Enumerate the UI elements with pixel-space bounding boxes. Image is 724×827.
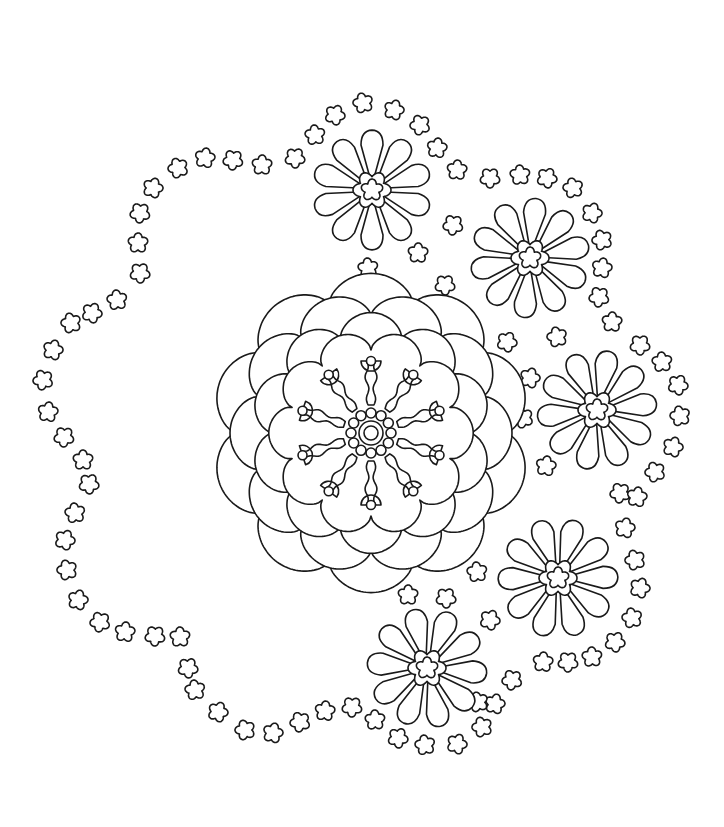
small-flower-icon bbox=[558, 653, 577, 672]
small-flower-icon bbox=[398, 585, 417, 604]
small-flower-icon bbox=[606, 633, 625, 652]
daisy-flower bbox=[498, 520, 618, 635]
small-flower-icon bbox=[305, 125, 324, 144]
central-mandala-flower bbox=[217, 273, 525, 592]
small-flower-icon bbox=[583, 203, 602, 222]
small-flower-icon bbox=[582, 647, 601, 666]
mandala-dot bbox=[356, 411, 366, 421]
small-flower-icon bbox=[563, 178, 582, 197]
small-flower-icon bbox=[534, 652, 553, 671]
mandala-ray-bulb bbox=[324, 370, 333, 379]
mandala-ray-bulb bbox=[367, 501, 376, 510]
daisy-flower bbox=[538, 351, 657, 469]
mandala-dot bbox=[366, 408, 376, 418]
small-flower-icon bbox=[185, 680, 204, 699]
small-flower-icon bbox=[128, 233, 147, 252]
mandala-ray-bulb bbox=[367, 357, 376, 366]
small-flower-icon bbox=[326, 106, 345, 125]
small-flower-icon bbox=[448, 160, 467, 179]
mandala-ray-bulb bbox=[324, 487, 333, 496]
small-flower-icon bbox=[593, 258, 612, 277]
small-flower-icon bbox=[90, 613, 109, 632]
small-flower-icon bbox=[385, 100, 404, 119]
small-flower-icon bbox=[252, 155, 271, 174]
small-flower-icon bbox=[472, 717, 491, 736]
small-flower-icon bbox=[61, 313, 80, 332]
small-flower-icon bbox=[196, 148, 215, 167]
small-flower-icon bbox=[69, 590, 88, 609]
small-flower-icon bbox=[73, 450, 92, 469]
small-flower-icon bbox=[589, 288, 608, 307]
daisy-flower bbox=[471, 198, 588, 317]
small-flower-icon bbox=[107, 290, 126, 309]
small-flower-icon bbox=[631, 578, 650, 597]
small-flower-icon bbox=[33, 371, 52, 390]
coloring-canvas bbox=[0, 0, 724, 827]
small-flower-icon bbox=[209, 703, 228, 722]
small-flower-icon bbox=[83, 304, 102, 323]
small-flower-icon bbox=[65, 503, 84, 522]
small-flower-icon bbox=[415, 735, 434, 754]
mandala-ray-bulb bbox=[435, 451, 444, 460]
daisy-petal bbox=[361, 130, 383, 176]
small-flower-icon bbox=[628, 487, 647, 506]
small-flower-icon bbox=[39, 402, 58, 421]
daisy-petal bbox=[498, 568, 544, 590]
small-flower-icon bbox=[467, 562, 486, 581]
small-flower-icon bbox=[56, 531, 75, 550]
small-flower-icon bbox=[436, 589, 455, 608]
small-flower-icon bbox=[179, 659, 198, 678]
daisy-flower bbox=[315, 130, 430, 250]
small-flower-icon bbox=[538, 169, 557, 188]
small-flower-icon bbox=[645, 463, 664, 482]
small-flower-icon bbox=[537, 456, 556, 475]
small-flower-icon bbox=[480, 169, 499, 188]
mandala-ray-bulb bbox=[435, 406, 444, 415]
small-flower-icon bbox=[144, 178, 163, 197]
small-flower-icon bbox=[670, 406, 689, 425]
mandala-dot bbox=[366, 448, 376, 458]
small-flower-icon bbox=[592, 230, 611, 249]
small-flower-icon bbox=[448, 735, 467, 754]
mandala-core-circle bbox=[364, 426, 378, 440]
mandala-dot bbox=[383, 418, 393, 428]
daisy-petal bbox=[361, 204, 383, 250]
daisy-flower bbox=[367, 609, 486, 726]
small-flower-icon bbox=[342, 698, 361, 717]
small-flower-icon bbox=[116, 622, 135, 641]
small-flower-icon bbox=[616, 518, 635, 537]
small-flower-icon bbox=[223, 151, 242, 170]
small-flower-icon bbox=[130, 204, 149, 223]
small-flower-icon bbox=[510, 165, 529, 184]
mandala-ray-bulb bbox=[409, 487, 418, 496]
small-flower-icon bbox=[664, 437, 683, 456]
small-flower-icon bbox=[610, 484, 629, 503]
small-flower-icon bbox=[389, 729, 408, 748]
small-flower-icon bbox=[54, 428, 73, 447]
small-flower-icon bbox=[521, 368, 540, 387]
small-flower-icon bbox=[410, 116, 429, 135]
small-flower-icon bbox=[365, 710, 384, 729]
mandala-ray-bulb bbox=[298, 406, 307, 415]
small-flower-icon bbox=[486, 694, 505, 713]
mandala-ray-bulb bbox=[298, 451, 307, 460]
small-flower-icon bbox=[80, 475, 99, 494]
small-flower-icon bbox=[145, 627, 164, 646]
mandala-dot bbox=[386, 428, 396, 438]
small-flower-icon bbox=[502, 671, 521, 690]
small-flower-icon bbox=[622, 608, 641, 627]
small-flower-icon bbox=[625, 550, 644, 569]
small-flower-icon bbox=[168, 159, 187, 178]
small-flower-icon bbox=[669, 376, 688, 395]
mandala-dot bbox=[346, 428, 356, 438]
small-flower-icon bbox=[408, 243, 427, 262]
small-flower-icon bbox=[44, 340, 63, 359]
small-flower-icon bbox=[290, 713, 309, 732]
small-flower-icon bbox=[547, 327, 566, 346]
small-flower-icon bbox=[235, 720, 254, 739]
mandala-dot bbox=[376, 445, 386, 455]
small-flower-icon bbox=[57, 560, 76, 579]
small-flower-icon bbox=[435, 276, 454, 295]
small-flower-icon bbox=[630, 336, 649, 355]
small-flower-icon bbox=[285, 149, 304, 168]
